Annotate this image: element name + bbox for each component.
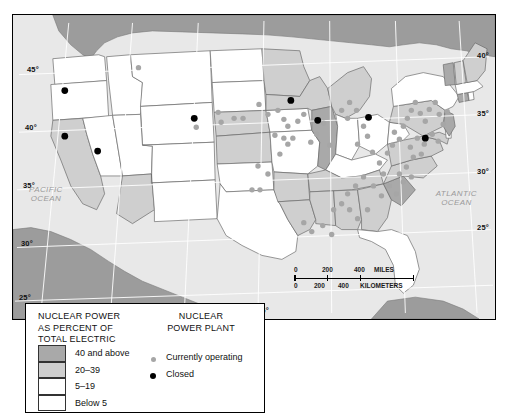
operating-plant-icon [146,348,160,366]
lat-label-30-left: 30° [21,239,33,248]
scale-miles-numbers: 0 200 400 MILES [294,266,414,275]
legend-item-20-39[interactable]: 20–39 [38,362,130,379]
lat-label-30-right: 30° [477,167,489,176]
closed-plant-icon [146,365,160,383]
legend-swatch-5-19 [38,378,66,395]
pacific-ocean-line2: OCEAN [29,194,63,203]
atlantic-ocean-label: ATLANTIC OCEAN [436,189,477,207]
atlantic-ocean-line2: OCEAN [436,198,477,207]
scale-bar-line [294,275,414,281]
state-oregon [51,81,109,121]
legend-swatch-20-39 [38,362,66,379]
scale-miles-unit: MILES [374,266,394,273]
legend-title-percent: NUCLEAR POWER AS PERCENT OF TOTAL ELECTR… [38,311,120,346]
state-washington [53,55,107,85]
legend-plant-key-list: Currently operating Closed [146,348,243,382]
scale-km-0: 0 [294,282,298,289]
legend-label-5-19: 5–19 [75,381,95,391]
legend-item-currently-operating[interactable]: Currently operating [146,348,243,365]
state-kansas [216,132,272,164]
legend-label-currently-operating: Currently operating [166,352,243,362]
pacific-ocean-label: PACIFIC OCEAN [29,185,63,203]
state-vermont [443,63,455,86]
legend-swatch-40-and-above [38,345,66,362]
legend-item-40-and-above[interactable]: 40 and above [38,345,130,362]
scale-km-200: 200 [314,282,325,289]
legend-label-20-39: 20–39 [75,365,100,375]
atlantic-ocean-line1: ATLANTIC [436,189,477,198]
lat-label-45-left: 45° [27,65,39,74]
legend-item-closed[interactable]: Closed [146,365,243,382]
legend-item-below-5[interactable]: Below 5 [38,395,130,412]
state-oklahoma [217,162,274,192]
state-montana [131,51,213,107]
legend-swatch-list: 40 and above 20–39 5–19 Below 5 [38,345,130,411]
state-arkansas [274,172,310,202]
state-rhode-island [468,91,474,100]
scale-miles-400: 400 [354,266,365,273]
legend-title-line2: AS PERCENT OF [38,323,120,335]
map-canvas[interactable]: .st{stroke:#6b6b6b;stroke-width:.7;} .c4… [12,14,496,320]
lat-label-40-left: 40° [25,123,37,132]
map-legend[interactable]: NUCLEAR POWER AS PERCENT OF TOTAL ELECTR… [25,303,265,413]
scale-km-400: 400 [338,282,349,289]
scale-miles-0: 0 [294,266,298,273]
legend-plant-line2: POWER PLANT [146,323,256,335]
lat-label-35-right: 35° [477,109,489,118]
legend-label-closed: Closed [166,369,194,379]
scale-km-unit: KILOMETERS [360,282,403,289]
scale-miles-200: 200 [322,266,333,273]
legend-title-plant: NUCLEAR POWER PLANT [146,311,256,334]
lat-label-40-right: 40° [477,51,489,60]
legend-item-5-19[interactable]: 5–19 [38,378,130,395]
state-south-dakota [212,81,266,113]
lat-label-25-left: 25° [19,293,31,302]
legend-swatch-below-5 [38,395,66,412]
scale-km-numbers: 0 200 400 KILOMETERS [294,282,414,291]
legend-label-40-and-above: 40 and above [75,348,130,358]
lat-label-25-right: 25° [477,223,489,232]
legend-plant-line1: NUCLEAR [146,311,256,323]
legend-title-line1: NUCLEAR POWER [38,311,120,323]
legend-label-below-5: Below 5 [75,398,107,408]
state-wyoming [140,102,214,145]
scale-bar: 0 200 400 MILES 0 200 400 KILOMETERS [294,266,414,291]
legend-title-line3: TOTAL ELECTRIC [38,334,120,346]
map-svg: .st{stroke:#6b6b6b;stroke-width:.7;} .c4… [13,15,495,319]
pacific-ocean-line1: PACIFIC [29,185,63,194]
state-colorado [142,142,215,183]
